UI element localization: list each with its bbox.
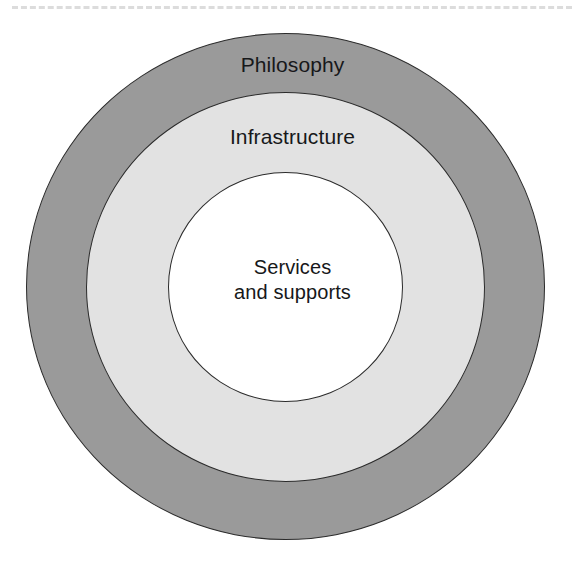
diagram-page: Philosophy Infrastructure Services and s… [0, 0, 585, 567]
ring-label-philosophy: Philosophy [0, 52, 585, 78]
ring-label-infrastructure: Infrastructure [0, 124, 585, 150]
concentric-circle-diagram: Philosophy Infrastructure Services and s… [0, 0, 585, 567]
ring-label-services: Services and supports [0, 255, 585, 305]
